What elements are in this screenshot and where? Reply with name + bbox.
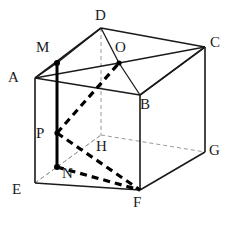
edge-F-G [140,152,205,190]
segment-P-O [57,63,119,133]
line-M-D [57,28,101,63]
vertex-label-G: G [209,143,220,158]
vertex-label-A: A [8,70,19,85]
line-B-O [119,63,140,95]
vertex-label-B: B [140,97,150,112]
vertex-label-C: C [210,35,220,50]
vertex-label-O: O [115,40,126,55]
line-B-C-O-face [140,47,205,95]
geometry-figure: A B C D E F G H M N O P [0,0,246,237]
edge-H-G [101,135,205,152]
vertex-label-F: F [133,195,141,210]
vertex-label-E: E [12,182,21,197]
vertex-label-H: H [96,139,107,154]
dot-M [54,60,60,66]
dot-O [116,60,121,65]
vertex-label-N: N [62,166,73,181]
dot-N [54,164,60,170]
vertex-label-M: M [36,40,49,55]
edge-A-B [35,78,140,95]
line-C-O [119,47,205,63]
edge-E-F [35,183,140,190]
vertex-label-P: P [36,126,44,141]
line-E-N [35,167,57,183]
dot-P [54,130,59,135]
vertex-label-D: D [95,8,106,23]
